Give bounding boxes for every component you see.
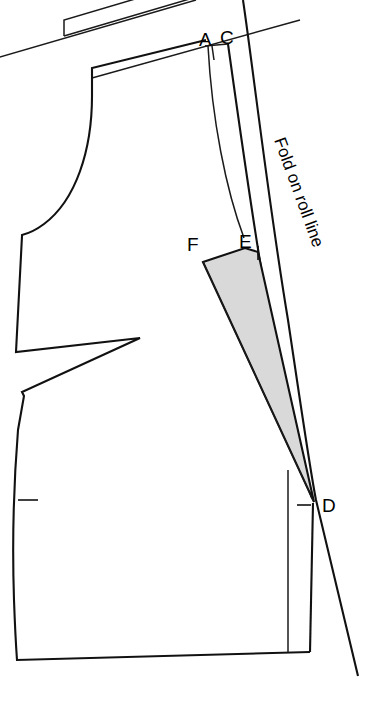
canvas-background bbox=[0, 0, 375, 704]
pattern-drawing: A C F E D Fold on roll line bbox=[0, 0, 375, 704]
label-point-d: D bbox=[322, 495, 336, 516]
label-point-c: C bbox=[220, 27, 234, 48]
label-point-a: A bbox=[199, 29, 212, 50]
label-point-f: F bbox=[187, 234, 199, 255]
label-point-e: E bbox=[239, 231, 252, 252]
pattern-diagram-root: A C F E D Fold on roll line bbox=[0, 0, 375, 704]
